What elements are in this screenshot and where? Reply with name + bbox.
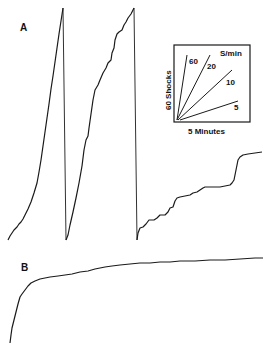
inset-x-label: 5 Minutes	[188, 127, 225, 136]
trace-b	[10, 258, 263, 343]
trace-a-segment-2	[66, 8, 134, 240]
trace-a-segment-3	[137, 152, 262, 240]
inset-label-10: 10	[226, 78, 235, 87]
inset-y-label: 60 Shocks	[164, 70, 173, 110]
trace-a-segment-1	[8, 8, 63, 240]
trace-a	[8, 8, 262, 240]
trace-a-reset-1	[63, 8, 66, 240]
cumulative-record-figure: 60 20 10 5 S/min 60 Shocks 5 Minutes	[0, 0, 268, 349]
panel-b-label: B	[21, 262, 28, 273]
panel-a-label: A	[20, 22, 27, 33]
rate-scale-inset: 60 20 10 5 S/min 60 Shocks 5 Minutes	[164, 45, 250, 136]
inset-label-60: 60	[189, 57, 198, 66]
inset-label-20: 20	[207, 62, 216, 71]
inset-label-5: 5	[234, 103, 239, 112]
trace-a-reset-2	[134, 8, 137, 240]
inset-title: S/min	[220, 49, 242, 58]
